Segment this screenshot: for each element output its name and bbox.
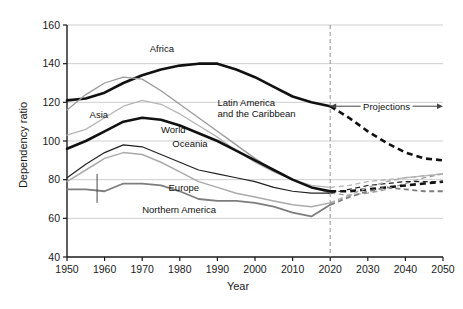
series-labels: AfricaLatin Americaand the CaribbeanAsia… — [90, 43, 296, 214]
y-tick-label-120: 120 — [42, 96, 60, 108]
x-tick-label-1990: 1990 — [206, 263, 230, 275]
series-northern-america — [67, 184, 443, 217]
x-tick-label-2010: 2010 — [281, 263, 305, 275]
label-line: World — [161, 124, 186, 135]
label-line: Europe — [169, 182, 200, 193]
series-label-world: World — [161, 124, 186, 135]
projection-line — [330, 174, 443, 188]
projection-line — [330, 182, 443, 194]
dependency-ratio-line-chart: AfricaLatin Americaand the CaribbeanAsia… — [0, 0, 463, 309]
series-latin-america-and-the-caribbean — [67, 77, 443, 195]
x-axis-title: Year — [227, 280, 250, 292]
series-label-latin-america-and-the-caribbean: Latin Americaand the Caribbean — [217, 97, 295, 119]
historical-line — [67, 118, 330, 191]
x-tick-label-1950: 1950 — [55, 263, 79, 275]
series-world — [67, 118, 443, 191]
series-lines — [67, 64, 443, 217]
label-line: Latin America — [217, 97, 275, 108]
arrowhead-right — [437, 103, 443, 109]
label-line: and the Caribbean — [217, 108, 295, 119]
projection-line — [330, 174, 443, 195]
axes — [63, 25, 443, 261]
label-line: Oceania — [172, 138, 208, 149]
series-label-europe: Europe — [169, 182, 200, 193]
y-tick-label-80: 80 — [48, 173, 60, 185]
label-line: Asia — [90, 109, 109, 120]
y-tick-label-160: 160 — [42, 19, 60, 31]
x-tick-label-2020: 2020 — [319, 263, 343, 275]
historical-line — [67, 64, 330, 107]
x-tick-label-1980: 1980 — [168, 263, 192, 275]
x-tick-label-2050: 2050 — [431, 263, 455, 275]
x-tick-label-1960: 1960 — [93, 263, 117, 275]
x-tick-label-2030: 2030 — [356, 263, 380, 275]
y-tick-label-140: 140 — [42, 57, 60, 69]
y-axis-title: Dependency ratio — [17, 102, 29, 188]
projections-label: Projections — [363, 101, 410, 112]
y-tick-label-40: 40 — [48, 251, 60, 263]
label-line: Africa — [150, 43, 175, 54]
x-tick-label-2040: 2040 — [394, 263, 418, 275]
projection-line — [330, 106, 443, 160]
y-tick-label-100: 100 — [42, 135, 60, 147]
series-label-oceania: Oceania — [172, 138, 208, 149]
x-tick-label-1970: 1970 — [131, 263, 155, 275]
series-label-asia: Asia — [90, 109, 109, 120]
y-tick-label-60: 60 — [48, 212, 60, 224]
chart-figure: AfricaLatin Americaand the CaribbeanAsia… — [0, 0, 463, 309]
label-line: Northern America — [142, 204, 217, 215]
x-tick-label-2000: 2000 — [243, 263, 267, 275]
series-label-africa: Africa — [150, 43, 175, 54]
